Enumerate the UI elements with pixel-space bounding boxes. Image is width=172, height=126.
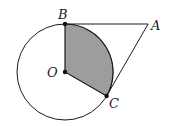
point-o bbox=[63, 70, 67, 74]
label-b: B bbox=[57, 7, 68, 22]
tangent-ac bbox=[107, 24, 149, 96]
label-c: C bbox=[109, 96, 119, 111]
shaded-sector-boc bbox=[65, 24, 113, 96]
point-b bbox=[63, 22, 67, 26]
label-o: O bbox=[47, 65, 58, 80]
geometry-diagram: B A O C bbox=[0, 0, 172, 126]
label-a: A bbox=[150, 18, 160, 33]
